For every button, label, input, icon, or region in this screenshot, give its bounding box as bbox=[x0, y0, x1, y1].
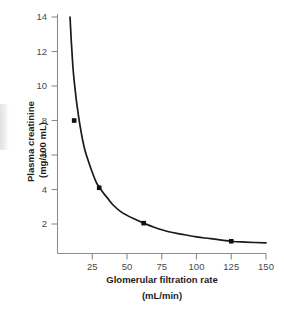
y-axis-units: (mg/100 mL) bbox=[37, 122, 48, 178]
y-tick-label: 14 bbox=[36, 11, 47, 22]
x-tick-label: 125 bbox=[223, 261, 239, 272]
y-tick-label: 4 bbox=[42, 184, 47, 195]
data-point-marker bbox=[72, 118, 77, 123]
chart-figure: 2468101214 255075100125150 Plasma creati… bbox=[0, 0, 284, 311]
y-axis-ticks bbox=[52, 17, 58, 224]
y-axis-tick-labels: 2468101214 bbox=[36, 11, 47, 229]
x-axis-ticks bbox=[92, 254, 266, 260]
x-tick-label: 100 bbox=[189, 261, 205, 272]
x-tick-label: 25 bbox=[87, 261, 98, 272]
x-tick-label: 50 bbox=[122, 261, 133, 272]
x-axis-tick-labels: 255075100125150 bbox=[87, 261, 274, 272]
x-tick-label: 150 bbox=[258, 261, 274, 272]
x-tick-label: 75 bbox=[156, 261, 167, 272]
creatinine-curve bbox=[70, 17, 266, 243]
data-point-marker bbox=[229, 239, 234, 244]
y-axis-title: Plasma creatinine bbox=[25, 101, 36, 182]
plasma-creatinine-vs-gfr-chart: 2468101214 255075100125150 Plasma creati… bbox=[0, 0, 284, 311]
data-point-marker bbox=[141, 221, 146, 226]
y-tick-label: 10 bbox=[36, 80, 47, 91]
data-point-marker bbox=[97, 185, 102, 190]
y-tick-label: 2 bbox=[42, 218, 47, 229]
page-edge-artifact bbox=[0, 104, 9, 150]
x-axis-title: Glomerular filtration rate bbox=[106, 274, 217, 285]
x-axis-units: (mL/min) bbox=[142, 290, 182, 301]
y-tick-label: 12 bbox=[36, 46, 47, 57]
page-edge-artifact-secondary bbox=[4, 148, 12, 157]
